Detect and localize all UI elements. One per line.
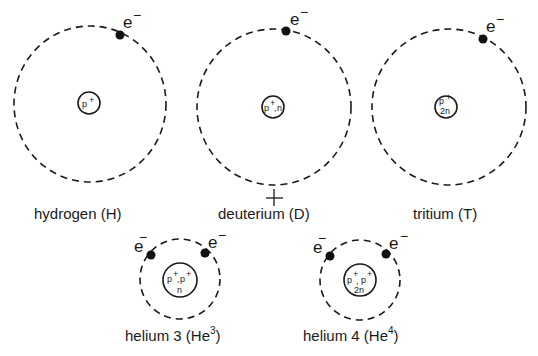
nucleus-label-p1: p — [167, 274, 172, 284]
atom-helium-4: p + , p + 2n e − e − helium 4 (He4) — [303, 228, 408, 344]
caption-end: ) — [216, 327, 221, 344]
electron-charge-right: − — [218, 227, 226, 243]
nucleus-label-2n: 2n — [440, 106, 450, 116]
caption-main: helium 4 (He — [303, 327, 388, 344]
nucleus-label-p2: p — [180, 274, 185, 284]
nucleus-label-plus2: + — [186, 269, 191, 279]
atom-hydrogen: p + e − hydrogen (H) — [14, 7, 166, 222]
electron-charge-left: − — [139, 229, 147, 245]
nucleus-label-plus: + — [89, 95, 94, 105]
atom-deuterium: p + , n e − deuterium (D) — [197, 4, 351, 222]
electron-charge: − — [496, 11, 504, 27]
caption-helium-4: helium 4 (He4) — [303, 325, 399, 344]
caption-tritium: tritium (T) — [413, 205, 477, 222]
electron-charge-left: − — [318, 230, 326, 246]
nucleus-label-p2: p — [361, 275, 366, 285]
nucleus-label-p: p — [82, 99, 87, 109]
caption-helium-3: helium 3 (He3) — [125, 325, 221, 344]
atom-helium-3: p + , p + n e − e − helium 3 (He3) — [125, 227, 226, 344]
nucleus-label-p1: p — [347, 275, 352, 285]
caption-end: ) — [394, 327, 399, 344]
nucleus-label-plus2: + — [367, 269, 372, 279]
electron-left — [147, 251, 156, 260]
electron-charge-right: − — [400, 228, 408, 244]
electron-label: e — [290, 10, 299, 29]
electron-label-right: e — [208, 233, 217, 252]
nucleus-label-plus: + — [446, 92, 451, 102]
electron-label-right: e — [389, 234, 398, 253]
nucleus-label-p: p — [439, 96, 444, 106]
caption-main: helium 3 (He — [125, 327, 210, 344]
electron-charge: − — [133, 7, 141, 23]
electron-left — [326, 252, 335, 261]
caption-deuterium: deuterium (D) — [218, 205, 310, 222]
isotope-diagram: p + e − hydrogen (H) p + , n e − deuteri… — [0, 0, 538, 356]
cross-mark — [266, 189, 283, 206]
nucleus-label-2n: 2n — [354, 285, 364, 295]
electron-label: e — [486, 17, 495, 36]
caption-hydrogen: hydrogen (H) — [34, 205, 122, 222]
nucleus-label-p: p — [264, 103, 269, 113]
nucleus-label-n: n — [277, 103, 282, 113]
nucleus-label-n: n — [177, 285, 182, 295]
electron-label: e — [123, 13, 132, 32]
atom-tritium: p + 2n e − tritium (T) — [372, 11, 526, 222]
electron-charge: − — [300, 4, 308, 20]
